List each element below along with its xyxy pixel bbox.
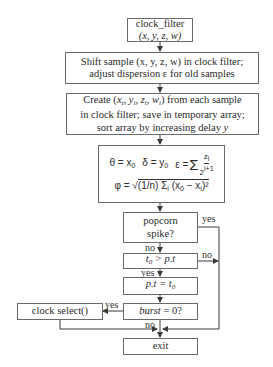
- assign-pt-text: p.t = t0: [146, 278, 176, 294]
- compute-statistics-box: θ = x0 δ = y0 ε = Σzi2i+1 φ = √(1/n) Σi …: [98, 145, 225, 203]
- clock-filter-start-box: clock_filter (x, y, z, w): [127, 18, 193, 42]
- popcorn-yes-label: yes: [202, 214, 215, 224]
- popcorn-line2: spike?: [147, 228, 174, 241]
- burst-text: burst = 0?: [139, 305, 182, 318]
- epsilon-formula: ε = Σzi2i+1: [175, 152, 213, 177]
- create-line2: in clock filter; save in temporary array…: [80, 109, 244, 122]
- popcorn-no-label: no: [145, 243, 155, 253]
- t0-yes-label: yes: [141, 268, 154, 278]
- burst-no-label: no: [145, 320, 155, 330]
- exit-box: exit: [123, 338, 198, 355]
- shift-sample-box: Shift sample (x, y, z, w) in clock filte…: [65, 52, 259, 84]
- shift-line1: Shift sample (x, y, z, w) in clock filte…: [81, 56, 243, 69]
- assign-pt-box: p.t = t0: [123, 277, 198, 295]
- popcorn-line1: popcorn: [143, 215, 177, 228]
- theta-delta-epsilon-formula: θ = x0 δ = y0 ε = Σzi2i+1: [109, 152, 213, 177]
- t0-no-label: no: [202, 250, 212, 260]
- shift-line2: adjust dispersion ε for old samples: [89, 68, 234, 81]
- burst-yes-label: yes: [105, 300, 118, 310]
- clock-select-box: clock select(): [17, 303, 103, 320]
- exit-text: exit: [153, 340, 169, 353]
- clock-select-text: clock select(): [32, 305, 88, 318]
- burst-decision: burst = 0?: [123, 303, 198, 320]
- start-title: clock_filter: [136, 18, 184, 31]
- create-array-box: Create (xi, yi, zi, wi) from each sample…: [66, 93, 259, 135]
- create-line1: Create (xi, yi, zi, wi) from each sample: [83, 94, 241, 110]
- create-line3: sort array by increasing delay y: [97, 122, 229, 135]
- delta-formula: δ = y0: [142, 157, 168, 173]
- phi-formula: φ = √(1/n) Σi (x0 − xi)²: [114, 180, 208, 196]
- theta-formula: θ = x0: [109, 157, 135, 173]
- t0-compare-decision: t0 > p.t: [123, 253, 198, 269]
- popcorn-spike-decision: popcorn spike?: [123, 212, 198, 243]
- start-params: (x, y, z, w): [139, 30, 182, 43]
